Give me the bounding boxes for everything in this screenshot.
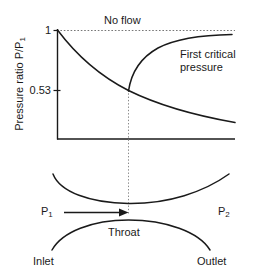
outlet-label: Outlet	[197, 255, 226, 268]
inlet-pressure-subscript: 1	[48, 210, 52, 219]
y-tick-label-1: 1	[26, 24, 51, 36]
outlet-pressure-subscript: 2	[225, 210, 229, 219]
inlet-pressure-label: P1	[41, 205, 53, 221]
no-flow-label: No flow	[104, 14, 141, 27]
first-critical-pressure-label: First critical pressure	[180, 48, 254, 74]
throat-label: Throat	[108, 226, 140, 239]
throat-pressure-curve	[58, 30, 236, 123]
inlet-label: Inlet	[33, 255, 54, 268]
nozzle-upper-wall	[53, 174, 229, 204]
y-axis-title-subscript: 1	[18, 37, 27, 41]
flow-arrow-head	[119, 209, 129, 217]
y-tick-label-0-53: 0.53	[18, 84, 51, 96]
outlet-pressure-label: P2	[218, 205, 230, 221]
venturi-pressure-ratio-figure: Pressure ratio P/P1 1 0.53 No flow First…	[0, 0, 269, 277]
